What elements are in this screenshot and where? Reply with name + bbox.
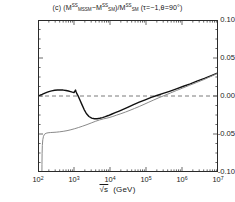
xaxis-title: √s (GeV) — [0, 185, 235, 194]
plot-frame — [38, 20, 218, 172]
title-num-sub-1: MSSM — [78, 7, 92, 12]
xtick-label-4: 106 — [171, 174, 193, 184]
chart-title: (c) (MSSMSSM−MSSSM)/MSSSM (τ=−1,θ=90°) — [0, 1, 235, 14]
xtick-label-3: 105 — [135, 174, 157, 184]
xtick-label-2: 104 — [99, 174, 121, 184]
title-divider: )/M — [115, 4, 126, 12]
title-den-sub: SM — [132, 7, 139, 12]
title-panel-label: (c) — [53, 4, 62, 12]
xtick-label-0: 102 — [27, 174, 49, 184]
xtick-label-5: 107 — [207, 174, 229, 184]
title-num-sub-2: SM — [108, 7, 115, 12]
figure-panel-c: (c) (MSSMSSM−MSSSM)/MSSSM (τ=−1,θ=90°) 0… — [0, 0, 235, 202]
xaxis-units: (GeV) — [113, 185, 135, 194]
title-open: (M — [63, 4, 71, 12]
title-params: (τ=−1,θ=90°) — [141, 4, 183, 12]
xtick-label-1: 103 — [63, 174, 85, 184]
title-minus: −M — [92, 4, 102, 12]
xaxis-sqrt-s: √s — [100, 185, 109, 194]
